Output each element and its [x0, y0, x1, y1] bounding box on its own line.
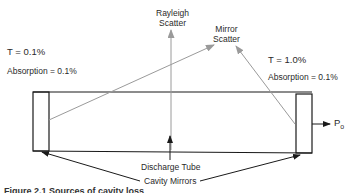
mirror-scatter-label-line2: Scatter: [213, 34, 240, 44]
output-power-subscript: o: [340, 123, 344, 130]
cavity-mirrors-label: Cavity Mirrors: [144, 176, 196, 186]
rayleigh-label-line1: Rayleigh: [156, 8, 189, 18]
output-power-label: Po: [334, 118, 344, 132]
right-cavity-mirror: [296, 94, 312, 153]
right-transmission-label: T = 1.0%: [268, 55, 306, 65]
mirror-scatter-label-line1: Mirror: [213, 24, 240, 34]
left-absorption-label: Absorption = 0.1%: [7, 66, 77, 76]
rayleigh-label-line2: Scatter: [156, 18, 189, 28]
cavity-mirror-pointer-right: [200, 155, 300, 181]
left-transmission-label: T = 0.1%: [7, 47, 45, 57]
left-cavity-mirror: [33, 92, 49, 151]
mirror-scatter-label: Mirror Scatter: [213, 24, 240, 44]
figure-caption: Figure 2.1 Sources of cavity loss: [4, 186, 144, 193]
discharge-tube: [33, 92, 312, 153]
discharge-tube-label: Discharge Tube: [141, 162, 201, 172]
right-absorption-label: Absorption = 0.1%: [268, 72, 338, 82]
rayleigh-scatter-label: Rayleigh Scatter: [156, 8, 189, 28]
mirror-scatter-ray-left: [49, 45, 214, 120]
cavity-mirror-pointer-left: [42, 152, 140, 181]
